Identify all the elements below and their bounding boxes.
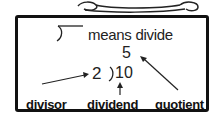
quotient-value: 5: [122, 44, 131, 62]
definition-text: means divide: [88, 26, 173, 43]
divisor-label: divisor: [26, 97, 67, 112]
decorative-scroll-ornament: [0, 0, 221, 14]
dividend-value: 10: [115, 64, 133, 82]
dividend-label: dividend: [87, 97, 138, 112]
quotient-label: quotient: [155, 97, 204, 112]
divisor-value: 2: [92, 64, 101, 84]
